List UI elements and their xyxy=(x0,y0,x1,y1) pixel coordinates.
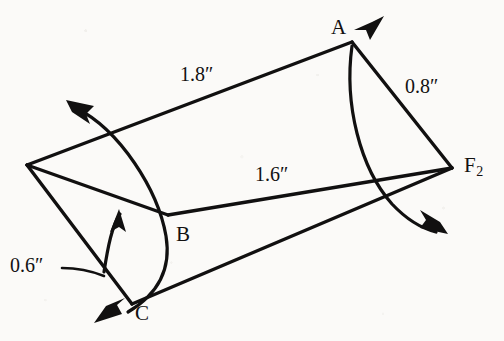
vertex-label-b: B xyxy=(176,224,190,245)
edge-left-apex-to-b xyxy=(27,165,168,215)
edge-a-to-f2 xyxy=(352,42,452,168)
dimension-label-bf2: 1.6″ xyxy=(255,164,288,184)
vertex-label-c-text: C xyxy=(135,301,149,325)
arrow-b-inner-icon xyxy=(110,209,126,232)
arrow-top-left-icon xyxy=(66,100,94,124)
vertex-label-f2-text: F xyxy=(464,153,476,177)
dimension-label-ab: 1.8″ xyxy=(180,64,213,84)
figure-canvas: A B C F2 1.8″ 0.8″ 1.6″ 0.6″ xyxy=(0,0,504,341)
arrow-c-icon xyxy=(94,298,125,323)
edge-b-to-f2 xyxy=(168,168,452,215)
dimension-label-bc: 0.6″ xyxy=(10,255,43,275)
arrow-a-icon xyxy=(354,16,384,40)
geometry-diagram xyxy=(0,0,504,341)
vertex-label-b-text: B xyxy=(176,222,190,246)
edge-left-apex-to-c xyxy=(27,165,132,304)
vertex-label-a-text: A xyxy=(331,15,346,39)
vertex-label-c: C xyxy=(135,303,149,324)
dimension-label-af2: 0.8″ xyxy=(405,76,438,96)
vertex-label-f2: F2 xyxy=(464,155,483,176)
leader-line-dim-bc xyxy=(62,268,104,276)
vertex-label-f2-subscript: 2 xyxy=(476,164,483,179)
vertex-label-a: A xyxy=(331,17,346,38)
arrow-bottom-right-icon xyxy=(420,210,448,234)
